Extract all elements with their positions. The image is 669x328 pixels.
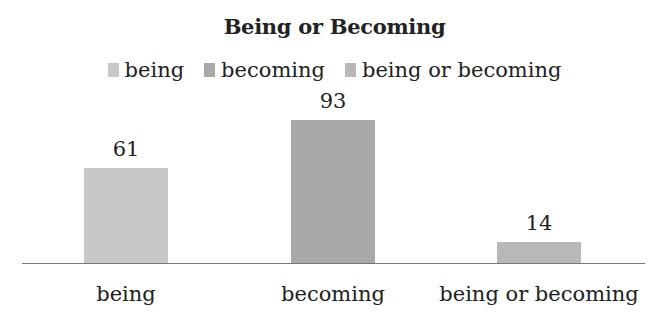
legend-label: being or becoming <box>362 58 561 82</box>
chart-legend: being becoming being or becoming <box>0 58 669 82</box>
chart-title: Being or Becoming <box>0 14 669 39</box>
value-label-being: 61 <box>84 137 168 161</box>
value-label-becoming: 93 <box>291 89 375 113</box>
legend-label: being <box>125 58 185 82</box>
legend-swatch-icon <box>108 63 119 77</box>
x-axis-line <box>22 263 645 264</box>
category-label-being: being <box>76 282 176 306</box>
bar-being-or-becoming <box>497 242 581 263</box>
legend-item-being-or-becoming: being or becoming <box>345 58 561 82</box>
legend-label: becoming <box>221 58 325 82</box>
bar-becoming <box>291 120 375 263</box>
category-label-becoming: becoming <box>262 282 404 306</box>
category-label-being-or-becoming: being or becoming <box>430 282 648 306</box>
bar-being <box>84 168 168 263</box>
value-label-being-or-becoming: 14 <box>497 211 581 235</box>
legend-swatch-icon <box>204 63 215 77</box>
legend-item-becoming: becoming <box>204 58 325 82</box>
legend-item-being: being <box>108 58 185 82</box>
legend-swatch-icon <box>345 63 356 77</box>
